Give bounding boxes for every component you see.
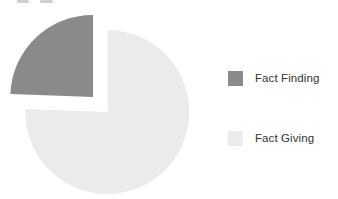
legend-swatch-fact-giving <box>228 131 243 146</box>
legend-label-fact-finding: Fact Finding <box>255 72 319 84</box>
legend-item-fact-finding[interactable]: Fact Finding <box>228 48 338 108</box>
legend-label-fact-giving: Fact Giving <box>255 132 314 144</box>
pie-chart-plot-area <box>0 0 210 199</box>
pie-chart-svg <box>0 0 210 199</box>
pie-slice-fact-finding[interactable] <box>10 15 93 97</box>
pie-chart-figure: Fact Finding Fact Giving <box>0 0 338 199</box>
legend-item-fact-giving[interactable]: Fact Giving <box>228 108 338 168</box>
chart-legend: Fact Finding Fact Giving <box>228 48 338 168</box>
legend-swatch-fact-finding <box>228 71 243 86</box>
